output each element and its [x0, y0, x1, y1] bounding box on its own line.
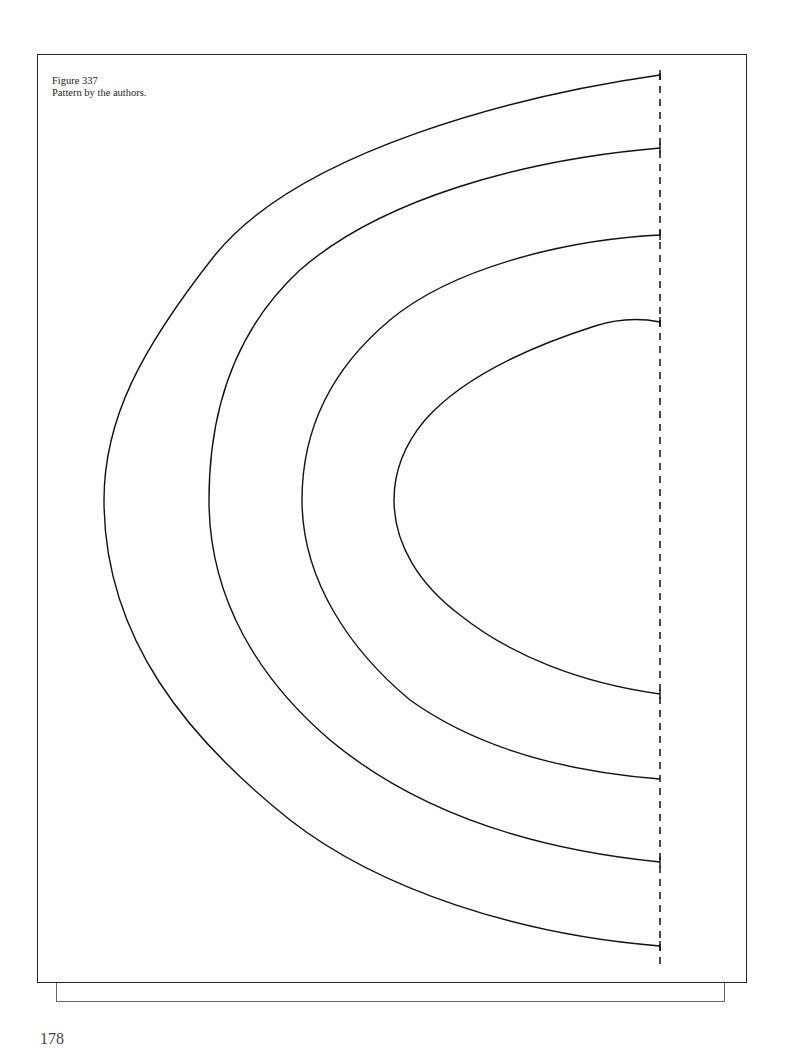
- pattern-curve-inner: [394, 319, 660, 694]
- page-number: 178: [40, 1030, 64, 1048]
- pattern-curve-outer: [104, 75, 660, 946]
- pattern-curve-third: [302, 235, 660, 779]
- pattern-curve-second: [209, 148, 660, 862]
